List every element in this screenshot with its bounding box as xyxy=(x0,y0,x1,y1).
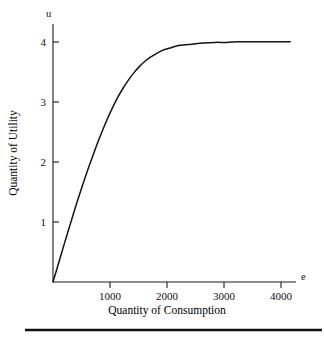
utility-curve-line xyxy=(53,42,290,282)
figure-container: u e 4 3 2 1 1000 2000 3000 4000 Quantity… xyxy=(0,0,324,339)
y-tick-label-1: 1 xyxy=(41,216,47,228)
y-tick-label-2: 2 xyxy=(41,156,47,168)
x-axis-variable-label: e xyxy=(301,271,306,282)
utility-curve-chart: u e 4 3 2 1 1000 2000 3000 4000 Quantity… xyxy=(0,0,324,339)
x-tick-label-3000: 3000 xyxy=(213,290,236,302)
y-axis-variable-label: u xyxy=(46,8,52,19)
x-axis-title: Quantity of Consumption xyxy=(108,304,226,317)
x-tick-label-4000: 4000 xyxy=(270,290,293,302)
y-tick-label-4: 4 xyxy=(41,36,47,48)
x-tick-label-2000: 2000 xyxy=(156,290,179,302)
y-tick-label-3: 3 xyxy=(41,96,47,108)
y-axis-title: Quantity of Utility xyxy=(7,110,20,196)
x-tick-label-1000: 1000 xyxy=(99,290,122,302)
